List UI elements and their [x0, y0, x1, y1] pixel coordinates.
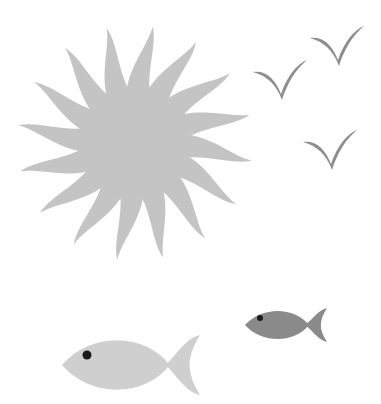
bird-icon: [303, 130, 357, 170]
fish-eye: [257, 315, 263, 321]
small-fish-icon: [245, 308, 327, 342]
birds-group: [253, 26, 364, 170]
sun-body: [89, 97, 181, 189]
fish-body: [62, 340, 170, 390]
illustration-canvas: [0, 0, 381, 404]
large-fish-icon: [62, 335, 200, 395]
fish-eye: [83, 351, 92, 360]
fish-body: [245, 311, 309, 339]
bird-icon: [253, 60, 307, 100]
fishes-group: [62, 308, 327, 395]
bird-icon: [310, 26, 364, 66]
sun-icon: [18, 26, 252, 260]
fish-tail: [166, 335, 200, 395]
fish-tail: [305, 308, 327, 342]
